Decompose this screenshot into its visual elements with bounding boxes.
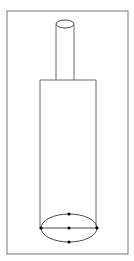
diagram-canvas [0,0,134,261]
dot-right [95,226,98,229]
dot-top [67,212,70,215]
outer-frame [7,11,128,254]
narrow-neck [56,20,74,80]
wide-body [40,80,96,228]
dot-left [39,226,42,229]
base-ellipse-group [39,212,98,243]
neck-top-ellipse [56,20,74,28]
dot-bottom [67,240,70,243]
dot-center [67,226,70,229]
